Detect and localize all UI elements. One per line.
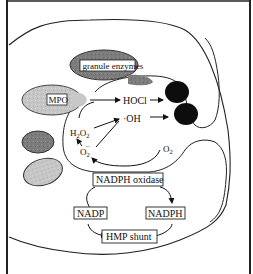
hydroxyl-radical-label: ·OH <box>123 113 141 124</box>
hmp-shunt-label: HMP shunt <box>106 231 152 242</box>
nadp-label: NADP <box>77 208 105 219</box>
microbe-1 <box>165 81 189 103</box>
nadph-label: NADPH <box>148 208 182 219</box>
cycle-arrow-nadph-to-oxidase <box>87 187 95 208</box>
mpo-label: MPO <box>49 95 69 105</box>
granule-enzymes-granule: granule enzymes <box>70 50 153 85</box>
dark-granule <box>22 131 54 153</box>
arrow-h2o2-to-oh <box>94 119 119 128</box>
hocl-label: HOCl <box>123 95 147 106</box>
oxygen-label: O2 <box>163 144 173 155</box>
neutrophil-diagram: granule enzymes MPO HOCl ·OH H2O2 O2– O2… <box>0 0 253 274</box>
arrow-superoxide-to-oh <box>96 121 119 147</box>
cycle-arrow-shunt-to-nadph <box>155 224 172 236</box>
arrow-o2-to-superoxide <box>92 150 160 166</box>
arrow-superoxide-to-h2o2 <box>77 139 82 146</box>
nadph-oxidase-label: NADPH oxidase <box>96 174 164 185</box>
granule-enzymes-label: granule enzymes <box>83 61 144 71</box>
cycle-arrow-oxidase-to-nadph <box>160 187 172 203</box>
microbe-2 <box>174 103 198 125</box>
h2o2-label: H2O2 <box>70 128 90 139</box>
light-granule <box>20 153 66 190</box>
mpo-granule: MPO <box>22 85 87 115</box>
